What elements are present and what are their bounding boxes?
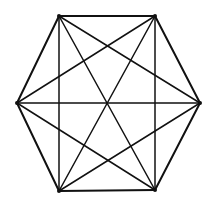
- hexagon-side: [155, 103, 200, 190]
- vertex-dot: [153, 188, 157, 192]
- vertex-dot: [57, 14, 61, 18]
- vertex-dot: [15, 101, 19, 105]
- vertex-dot: [198, 101, 202, 105]
- vertex-dot: [57, 189, 61, 193]
- hexagon-diagonal: [59, 103, 200, 191]
- hexagon-side: [59, 190, 155, 191]
- vertex-dot: [153, 14, 157, 18]
- hexagon-diagonal: [59, 16, 200, 103]
- edges: [17, 16, 200, 191]
- hexagon-diagram: [0, 0, 214, 198]
